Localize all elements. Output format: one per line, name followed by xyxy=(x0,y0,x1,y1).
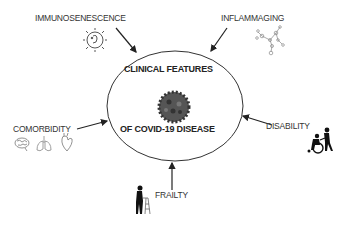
center-title-line2: OF COVID-19 DISEASE xyxy=(120,124,215,134)
molecule-network-icon xyxy=(256,26,285,55)
label-inflammaging: INFLAMMAGING xyxy=(221,13,284,23)
coronavirus-icon xyxy=(159,92,189,122)
label-comorbidity: COMORBIDITY xyxy=(13,124,71,134)
arrow-comorbidity xyxy=(77,121,107,129)
lungs-icon xyxy=(37,136,51,151)
label-disability: DISABILITY xyxy=(266,121,310,131)
label-immunosenescence: IMMUNOSENESCENCE xyxy=(35,13,126,23)
immune-cell-icon xyxy=(83,28,107,52)
center-title-line1: CLINICAL FEATURES xyxy=(124,64,213,74)
walker-person-icon xyxy=(136,186,150,215)
brain-icon xyxy=(15,138,29,151)
arrow-immunosenescence xyxy=(116,28,136,52)
heart-icon xyxy=(62,133,72,151)
wheelchair-person-icon xyxy=(308,128,334,153)
label-frailty: FRAILTY xyxy=(155,190,188,200)
arrow-inflammaging xyxy=(211,28,227,51)
